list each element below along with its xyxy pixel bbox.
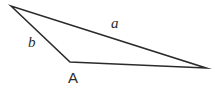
vertex-label-a: A [68,70,78,85]
side-label-b: b [28,35,36,50]
triangle-outline [11,6,206,68]
side-label-a: a [111,16,119,31]
geometry-figure: a b A [0,0,215,94]
